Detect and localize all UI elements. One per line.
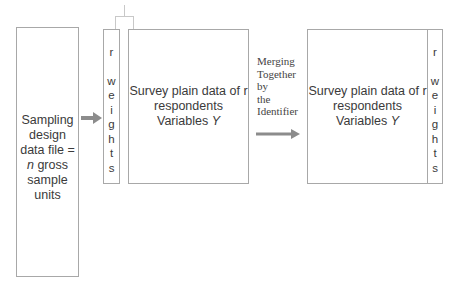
survey-line: Variables Y: [336, 114, 399, 129]
merge-label: Merging Together by the Identifier: [257, 55, 298, 118]
merge-label-line: Identifier: [257, 105, 298, 118]
left-box-line: units: [20, 188, 75, 203]
variables-label: Variables: [336, 114, 391, 128]
weights-letter: s: [432, 161, 438, 176]
merge-label-line: Merging: [257, 55, 298, 68]
weights-letter: s: [109, 161, 115, 176]
survey-line: Survey plain data of r: [129, 84, 247, 99]
weights-letter: e: [432, 88, 438, 103]
y-variable: Y: [212, 114, 220, 128]
bracket-top: [115, 16, 134, 17]
bracket-right: [133, 16, 134, 29]
weights-letter: w: [107, 74, 115, 89]
left-box-text: Sampling design data file = n gross samp…: [16, 27, 79, 277]
arrow-right-icon: [81, 111, 103, 125]
variables-label: Variables: [157, 114, 212, 128]
weights-letter: t: [433, 146, 436, 161]
survey-line: respondents: [154, 99, 223, 114]
weights-letter: t: [110, 146, 113, 161]
weights-letter: e: [108, 88, 114, 103]
weights-letter: h: [432, 132, 438, 147]
n-variable: n: [27, 158, 34, 172]
left-box-word: gross: [37, 158, 68, 172]
left-box-line: Sampling: [20, 113, 75, 128]
bracket-left: [115, 16, 116, 29]
survey-line: Survey plain data of r: [308, 84, 426, 99]
left-box-line: sample: [20, 173, 75, 188]
survey-data-box-right: Survey plain data of r respondents Varia…: [307, 29, 428, 184]
weights-letter: r: [110, 45, 114, 60]
merge-label-line: Together: [257, 68, 298, 81]
survey-data-box-left: Survey plain data of r respondents Varia…: [128, 29, 249, 184]
left-box-line: data file =: [20, 143, 75, 158]
survey-line: Variables Y: [157, 114, 220, 129]
weights-letter: h: [108, 132, 114, 147]
weights-letter: i: [110, 103, 113, 118]
merge-label-line: by: [257, 80, 298, 93]
survey-line: respondents: [333, 99, 402, 114]
weights-letter: r: [433, 45, 437, 60]
merge-label-line: the: [257, 93, 298, 106]
weights-letter: i: [434, 103, 437, 118]
weights-column-left: r w e i g h t s: [103, 29, 120, 184]
merge-arrow-icon: [256, 128, 301, 140]
left-box-line: design: [20, 128, 75, 143]
bracket-stem: [124, 5, 125, 16]
weights-letter: g: [108, 117, 114, 132]
y-variable: Y: [391, 114, 399, 128]
weights-letter: g: [432, 117, 438, 132]
weights-column-right: r w e i g h t s: [427, 29, 443, 184]
weights-letter: w: [431, 74, 439, 89]
left-box-line: n gross: [20, 158, 75, 173]
